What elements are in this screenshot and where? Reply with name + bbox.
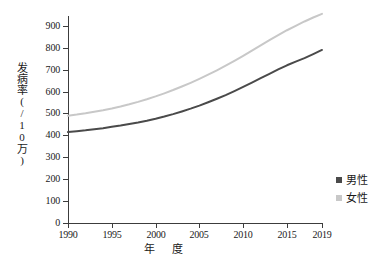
y-tick-label: 500 [46, 108, 60, 118]
chart-figure: 0100200300400500600700800900 19901995200… [0, 0, 392, 269]
y-tick-mark [63, 70, 68, 71]
y-tick-label: 400 [46, 130, 60, 140]
y-tick-mark [63, 135, 68, 136]
x-tick-label: 2015 [267, 229, 307, 240]
y-tick-mark [63, 26, 68, 27]
legend-item-0[interactable]: 男性 [336, 171, 392, 189]
y-tick-label: 800 [46, 43, 60, 53]
x-tick-mark [156, 224, 157, 228]
y-axis-line [68, 16, 69, 224]
y-tick-label: 0 [55, 218, 60, 228]
y-tick-label: 100 [46, 196, 60, 206]
chart-legend: 男性女性 [336, 171, 392, 207]
legend-label: 男性 [346, 174, 368, 186]
y-tick-mark [63, 92, 68, 93]
x-tick-mark [68, 224, 69, 228]
x-tick-mark [322, 224, 323, 228]
series-line-男性 [68, 50, 322, 132]
x-axis-title: 年 度 [0, 243, 330, 256]
legend-label: 女性 [346, 192, 368, 204]
x-tick-mark [243, 224, 244, 228]
x-tick-mark [112, 224, 113, 228]
x-tick-label: 1995 [92, 229, 132, 240]
legend-square-marker [336, 177, 342, 183]
x-tick-label: 2000 [136, 229, 176, 240]
x-tick-mark [287, 224, 288, 228]
y-tick-label: 200 [46, 174, 60, 184]
x-axis-line [68, 223, 323, 224]
y-tick-mark [63, 48, 68, 49]
y-tick-mark [63, 157, 68, 158]
y-tick-label: 300 [46, 152, 60, 162]
legend-item-1[interactable]: 女性 [336, 189, 392, 207]
y-tick-mark [63, 201, 68, 202]
series-line-女性 [68, 14, 322, 116]
x-tick-label: 2005 [179, 229, 219, 240]
y-tick-mark [63, 113, 68, 114]
y-tick-label: 900 [46, 21, 60, 31]
y-tick-mark [63, 179, 68, 180]
x-tick-mark [199, 224, 200, 228]
legend-square-marker [336, 195, 342, 201]
x-tick-label: 2019 [302, 229, 342, 240]
y-tick-label: 700 [46, 65, 60, 75]
y-tick-label: 600 [46, 87, 60, 97]
y-axis-title: 发病率(/10万) [12, 62, 28, 166]
x-tick-label: 1990 [48, 229, 88, 240]
x-tick-label: 2010 [223, 229, 263, 240]
